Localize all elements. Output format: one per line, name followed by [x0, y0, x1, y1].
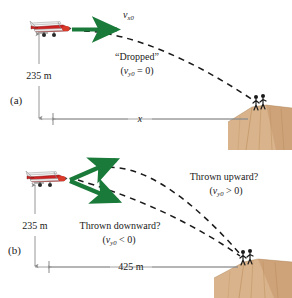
- thrown-downward-condition: (vy0 < 0): [102, 234, 135, 246]
- trajectory-dropped: [84, 31, 253, 100]
- dropped-label: “Dropped”: [115, 51, 159, 62]
- thrown-upward-label: Thrown upward?: [190, 171, 259, 182]
- range-label-b: 425 m: [118, 261, 144, 272]
- range-dimension-a: [39, 113, 248, 125]
- velocity-label-a: vx0: [123, 9, 134, 21]
- airplane-b: [26, 171, 68, 187]
- cliff-a: [228, 105, 292, 150]
- panel-tag-a: (a): [10, 94, 23, 107]
- height-label-a: 235 m: [26, 70, 52, 81]
- height-label-b: 235 m: [22, 220, 48, 231]
- cliff-b: [214, 259, 292, 298]
- panel-tag-b: (b): [8, 244, 21, 257]
- panel-b: Thrown upward? (vy0 > 0) Thrown downward…: [8, 160, 292, 298]
- panel-a: vx0 “Dropped” (vy0 = 0) 235 m (a) x: [10, 9, 292, 150]
- thrown-downward-label: Thrown downward?: [80, 220, 161, 231]
- dropped-condition: (vy0 = 0): [120, 65, 153, 77]
- thrown-upward-condition: (vy0 > 0): [209, 185, 242, 197]
- velocity-arrow-up-b: [70, 160, 116, 180]
- physics-figure: vx0 “Dropped” (vy0 = 0) 235 m (a) x: [0, 0, 292, 298]
- range-label-a: x: [137, 113, 143, 124]
- airplane-a: [30, 21, 72, 37]
